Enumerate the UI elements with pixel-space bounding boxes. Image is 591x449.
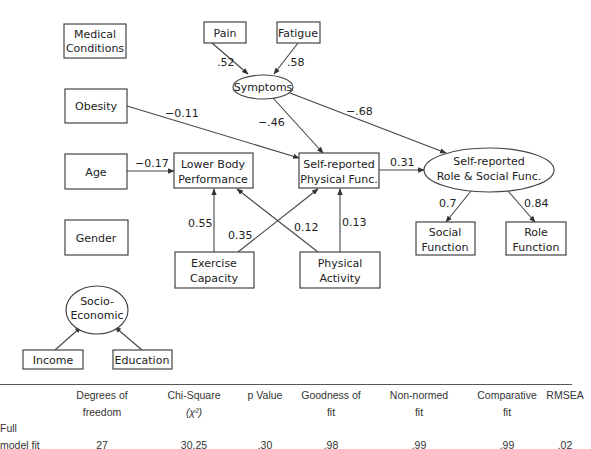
svg-text:Function: Function <box>422 241 469 254</box>
node-age: Age <box>65 154 127 189</box>
node-self-reported-role-social: Self-reported Role & Social Func. <box>424 148 554 192</box>
node-symptoms: Symptoms <box>233 75 293 99</box>
header-chi-square: Chi-Square (χ²) <box>158 387 230 421</box>
coef-activity-lower: 0.12 <box>294 221 319 234</box>
coef-role-rolefunc: 0.84 <box>524 197 549 210</box>
svg-text:Self-reported: Self-reported <box>453 155 524 168</box>
value-comparative-fit: .99 <box>470 437 544 449</box>
svg-text:Gender: Gender <box>76 232 117 245</box>
svg-text:Education: Education <box>115 354 170 367</box>
svg-text:Symptoms: Symptoms <box>234 81 293 94</box>
node-social-function: Social Function <box>416 222 475 255</box>
svg-text:Role & Social Func.: Role & Social Func. <box>437 170 542 183</box>
svg-text:Capacity: Capacity <box>190 272 239 285</box>
header-non-normed-fit: Non-normed fit <box>378 387 460 421</box>
svg-text:Medical: Medical <box>74 28 116 41</box>
svg-text:Conditions: Conditions <box>66 42 124 55</box>
path-diagram: Medical Conditions Pain Fatigue Symptoms… <box>0 0 591 384</box>
node-obesity: Obesity <box>65 89 127 123</box>
value-non-normed-fit: .99 <box>378 437 460 449</box>
header-comparative-fit: Comparative fit <box>470 387 544 421</box>
svg-text:Exercise: Exercise <box>191 257 237 270</box>
coef-exercise-lower: 0.55 <box>188 217 213 230</box>
svg-text:Performance: Performance <box>178 173 248 186</box>
node-fatigue: Fatigue <box>277 22 320 43</box>
svg-text:Income: Income <box>33 354 74 367</box>
value-p-value: .30 <box>230 437 300 449</box>
node-physical-activity: Physical Activity <box>300 252 380 288</box>
header-rmsea: RMSEA <box>540 387 590 404</box>
svg-text:Activity: Activity <box>319 272 361 285</box>
svg-text:Social: Social <box>429 226 462 239</box>
svg-text:Obesity: Obesity <box>75 100 118 113</box>
value-goodness-of-fit: .98 <box>292 437 370 449</box>
svg-text:Self-reported: Self-reported <box>303 158 374 171</box>
model-fit-table: Degrees of freedom Chi-Square (χ²) p Val… <box>0 384 572 449</box>
edge-obesity-physical <box>127 106 299 158</box>
row-label: Full model fit <box>0 420 60 449</box>
node-role-function: Role Function <box>506 222 566 255</box>
header-goodness-of-fit: Goodness of fit <box>292 387 370 421</box>
header-degrees-of-freedom: Degrees of freedom <box>62 387 142 421</box>
node-gender: Gender <box>65 220 128 255</box>
node-exercise-capacity: Exercise Capacity <box>175 252 254 288</box>
svg-text:Physical: Physical <box>318 257 363 270</box>
svg-text:Lower Body: Lower Body <box>181 158 246 171</box>
coef-age-lower: −0.17 <box>135 157 169 170</box>
coef-obesity-physical: −0.11 <box>165 107 199 120</box>
value-degrees-of-freedom: 27 <box>62 437 142 449</box>
coef-symptoms-physical: −.46 <box>258 116 285 129</box>
svg-text:Pain: Pain <box>214 27 237 40</box>
svg-text:Age: Age <box>85 166 107 179</box>
node-socio-economic: Socio- Economic <box>66 286 128 334</box>
coef-exercise-physical: 0.35 <box>228 229 253 242</box>
node-lower-body-performance: Lower Body Performance <box>174 153 253 188</box>
svg-text:Role: Role <box>524 226 548 239</box>
coef-role-social: 0.7 <box>439 197 457 210</box>
coef-symptoms-role: −.68 <box>346 105 373 118</box>
node-medical-conditions: Medical Conditions <box>64 24 126 58</box>
node-self-reported-physical: Self-reported Physical Func. <box>299 153 379 188</box>
coef-physical-role: 0.31 <box>390 156 415 169</box>
edge-education-socio <box>115 327 142 350</box>
coef-pain-symptoms: .52 <box>217 56 235 69</box>
svg-text:Fatigue: Fatigue <box>278 27 318 40</box>
coef-fatigue-symptoms: .58 <box>287 56 305 69</box>
table-header-row: Degrees of freedom Chi-Square (χ²) p Val… <box>0 385 572 417</box>
svg-text:Socio-: Socio- <box>80 295 114 308</box>
svg-text:Function: Function <box>513 241 560 254</box>
table-row-full-model: Full model fit 27 30.25 .30 .98 .99 .99 … <box>0 417 572 449</box>
coef-activity-physical: 0.13 <box>342 216 367 229</box>
svg-text:Economic: Economic <box>70 309 123 322</box>
node-income: Income <box>23 350 83 369</box>
value-rmsea: .02 <box>540 437 590 449</box>
edge-symptoms-role <box>290 93 446 153</box>
value-chi-square: 30.25 <box>158 437 230 449</box>
header-p-value: p Value <box>230 387 300 404</box>
node-pain: Pain <box>204 22 246 43</box>
svg-text:Physical Func.: Physical Func. <box>300 173 377 186</box>
edge-income-socio <box>55 327 81 350</box>
node-education: Education <box>113 350 172 369</box>
